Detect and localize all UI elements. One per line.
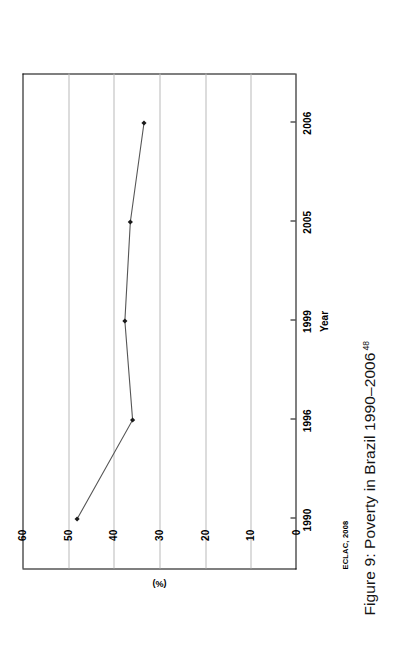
y-tick-label-20: 20 <box>199 529 210 541</box>
plot-outer: 0102030405060 (%) <box>22 73 296 569</box>
x-tick-label-1999: 1999 <box>301 309 312 332</box>
series-polyline <box>77 123 144 519</box>
figure-caption-text: Figure 9: Poverty in Brazil 1990–2006 <box>360 352 377 615</box>
data-point-2005 <box>127 219 132 224</box>
rotated-figure-page: 0102030405060 (%) 19901996199920052006 Y… <box>0 0 419 649</box>
x-tick-label-1990: 1990 <box>301 508 312 531</box>
y-tick-label-60: 60 <box>17 529 28 541</box>
figure-chart: 0102030405060 (%) 19901996199920052006 Y… <box>22 55 332 615</box>
y-axis-tick-labels: 0102030405060 <box>22 523 296 569</box>
plot-area <box>22 73 296 569</box>
y-tick-label-50: 50 <box>62 529 73 541</box>
source-note: ECLAC, 2008 <box>340 520 349 569</box>
y-tick-label-30: 30 <box>154 529 165 541</box>
x-tick-label-1996: 1996 <box>301 409 312 432</box>
figure-caption-footnote: 48 <box>360 340 370 350</box>
y-axis-title: (%) <box>152 578 166 588</box>
x-axis-tick-labels: 19901996199920052006 <box>296 73 318 569</box>
x-tick-label-2005: 2005 <box>301 210 312 233</box>
y-tick-label-10: 10 <box>245 529 256 541</box>
figure-caption: Figure 9: Poverty in Brazil 1990–200648 <box>360 35 378 615</box>
x-axis-title: Year <box>318 73 329 569</box>
data-point-1999 <box>122 318 127 323</box>
y-tick-label-40: 40 <box>108 529 119 541</box>
data-point-2006 <box>141 120 146 125</box>
data-series-line <box>22 73 295 568</box>
x-tick-label-2006: 2006 <box>301 111 312 134</box>
